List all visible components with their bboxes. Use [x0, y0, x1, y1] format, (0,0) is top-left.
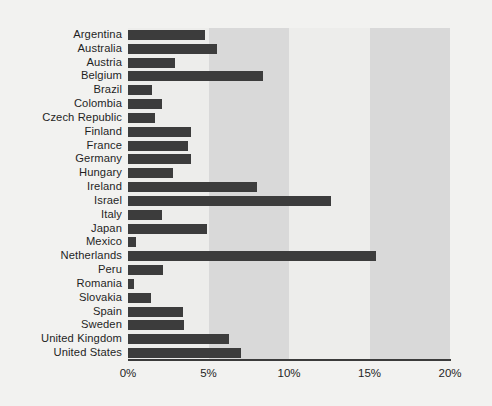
category-label: Brazil: [0, 82, 122, 96]
tick-label: 10%: [277, 365, 300, 381]
category-label: Czech Republic: [0, 110, 122, 124]
bar: [128, 224, 207, 234]
bar-row: Belgium: [0, 69, 492, 83]
category-label: France: [0, 138, 122, 152]
bar-row: Argentina: [0, 28, 492, 42]
category-label: Australia: [0, 41, 122, 55]
bar-row: Australia: [0, 42, 492, 56]
category-label: Netherlands: [0, 248, 122, 262]
tick-label: 0%: [120, 365, 137, 381]
bar: [128, 71, 263, 81]
category-label: Colombia: [0, 96, 122, 110]
category-label: Belgium: [0, 68, 122, 82]
bar-row: Brazil: [0, 83, 492, 97]
bar: [128, 85, 152, 95]
bar: [128, 30, 205, 40]
bar: [128, 251, 376, 261]
bar-row: Romania: [0, 277, 492, 291]
category-label: Argentina: [0, 27, 122, 41]
bar-row: Italy: [0, 208, 492, 222]
tick-label: 5%: [200, 365, 217, 381]
bar: [128, 307, 183, 317]
bar-row: Sweden: [0, 318, 492, 332]
category-label: Japan: [0, 221, 122, 235]
bar-row: Spain: [0, 305, 492, 319]
bar-row: Colombia: [0, 97, 492, 111]
x-axis-tick-labels: 0%5%10%15%20%: [0, 365, 492, 385]
bar: [128, 168, 173, 178]
bar-row: Israel: [0, 194, 492, 208]
category-label: Mexico: [0, 234, 122, 248]
category-label: Romania: [0, 276, 122, 290]
bar-row: Hungary: [0, 166, 492, 180]
category-label: Peru: [0, 262, 122, 276]
bar-row: Finland: [0, 125, 492, 139]
bar-row: Mexico: [0, 235, 492, 249]
bar-row: Netherlands: [0, 249, 492, 263]
category-label: Germany: [0, 151, 122, 165]
bar: [128, 154, 191, 164]
category-label: United States: [0, 345, 122, 359]
bar: [128, 196, 331, 206]
tick-label: 20%: [438, 365, 461, 381]
category-label: Italy: [0, 207, 122, 221]
bar-row: Germany: [0, 152, 492, 166]
bar-chart: ArgentinaAustraliaAustriaBelgiumBrazilCo…: [0, 0, 492, 406]
bar: [128, 320, 184, 330]
bar-row: Peru: [0, 263, 492, 277]
bar-row: Austria: [0, 56, 492, 70]
bar: [128, 334, 229, 344]
bar: [128, 113, 155, 123]
bar: [128, 182, 257, 192]
bar-row: Ireland: [0, 180, 492, 194]
category-label: United Kingdom: [0, 331, 122, 345]
bar: [128, 99, 162, 109]
bar: [128, 141, 188, 151]
bar-row: Slovakia: [0, 291, 492, 305]
x-axis-line: [128, 359, 451, 361]
bar-rows: ArgentinaAustraliaAustriaBelgiumBrazilCo…: [0, 28, 492, 360]
category-label: Spain: [0, 304, 122, 318]
category-label: Ireland: [0, 179, 122, 193]
bar: [128, 237, 136, 247]
bar: [128, 348, 241, 358]
bar-row: United States: [0, 346, 492, 360]
category-label: Austria: [0, 55, 122, 69]
bar: [128, 279, 134, 289]
bar: [128, 210, 162, 220]
bar-row: Japan: [0, 222, 492, 236]
bar: [128, 58, 175, 68]
tick-label: 15%: [358, 365, 381, 381]
bar: [128, 44, 217, 54]
bar-row: United Kingdom: [0, 332, 492, 346]
bar: [128, 265, 163, 275]
category-label: Israel: [0, 193, 122, 207]
category-label: Slovakia: [0, 290, 122, 304]
bar-row: Czech Republic: [0, 111, 492, 125]
bar-row: France: [0, 139, 492, 153]
bar: [128, 127, 191, 137]
bar: [128, 293, 151, 303]
category-label: Sweden: [0, 317, 122, 331]
category-label: Hungary: [0, 165, 122, 179]
category-label: Finland: [0, 124, 122, 138]
